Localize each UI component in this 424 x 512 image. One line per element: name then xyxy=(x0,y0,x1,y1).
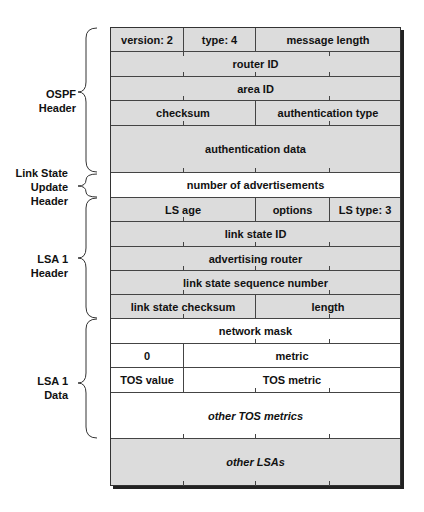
field-authentication-data: authentication data xyxy=(111,126,400,172)
row-advertising-router: advertising router xyxy=(111,247,400,271)
field-tos-metric: TOS metric xyxy=(183,368,400,392)
row-other-lsas: other LSAs xyxy=(111,439,400,485)
label-line: Data xyxy=(20,388,68,402)
tick xyxy=(183,481,184,486)
field-number-of-advertisements: number of advertisements xyxy=(111,173,400,197)
field-other-lsas: other LSAs xyxy=(111,439,400,485)
label-line: Update xyxy=(2,180,68,194)
section-label-lsa1-data: LSA 1 Data xyxy=(20,374,68,402)
label-line: Header xyxy=(2,194,68,208)
tick xyxy=(255,481,256,486)
field-type: type: 4 xyxy=(183,28,255,51)
field-options: options xyxy=(255,198,329,221)
tick xyxy=(183,51,184,56)
packet-diagram: version: 2 type: 4 message length router… xyxy=(110,27,401,486)
field-area-id: area ID xyxy=(111,77,400,100)
field-metric: metric xyxy=(183,344,400,367)
row-network-mask: network mask xyxy=(111,319,400,344)
brace-ospf-header xyxy=(78,28,97,172)
field-message-length: message length xyxy=(255,28,400,51)
brace-lsu-header xyxy=(78,174,97,197)
label-line: Header xyxy=(30,101,76,115)
field-tos-value: TOS value xyxy=(111,368,183,392)
field-version: version: 2 xyxy=(111,28,183,51)
row-router-id: router ID xyxy=(111,52,400,77)
row-link-state-id: link state ID xyxy=(111,222,400,247)
brace-lsa1-header xyxy=(78,198,97,318)
field-authentication-type: authentication type xyxy=(255,101,400,125)
row-number-of-advertisements: number of advertisements xyxy=(111,173,400,198)
label-line: OSPF xyxy=(30,87,76,101)
row-version-type-length: version: 2 type: 4 message length xyxy=(111,28,400,52)
label-line: Link State xyxy=(2,166,68,180)
tick xyxy=(329,51,330,56)
tick xyxy=(329,481,330,486)
field-other-tos-metrics: other TOS metrics xyxy=(111,393,400,438)
field-ls-type: LS type: 3 xyxy=(329,198,400,221)
field-link-state-sequence-number: link state sequence number xyxy=(111,271,400,294)
label-line: Header xyxy=(20,266,68,280)
row-tos-value-metric: TOS value TOS metric xyxy=(111,368,400,393)
section-label-lsa1-header: LSA 1 Header xyxy=(20,252,68,280)
row-ls-sequence-number: link state sequence number xyxy=(111,271,400,295)
row-area-id: area ID xyxy=(111,77,400,101)
section-label-lsu-header: Link State Update Header xyxy=(2,166,68,208)
label-line: LSA 1 xyxy=(20,252,68,266)
row-other-tos-metrics: other TOS metrics xyxy=(111,393,400,439)
row-lsage-options-lstype: LS age options LS type: 3 xyxy=(111,198,400,222)
field-length: length xyxy=(255,295,400,318)
brace-lsa1-data xyxy=(78,319,97,438)
row-authentication-data: authentication data xyxy=(111,126,400,173)
row-ls-checksum-length: link state checksum length xyxy=(111,295,400,319)
row-checksum-authtype: checksum authentication type xyxy=(111,101,400,126)
section-label-ospf-header: OSPF Header xyxy=(30,87,76,115)
row-zero-metric: 0 metric xyxy=(111,344,400,368)
field-zero: 0 xyxy=(111,344,183,367)
label-line: LSA 1 xyxy=(20,374,68,388)
